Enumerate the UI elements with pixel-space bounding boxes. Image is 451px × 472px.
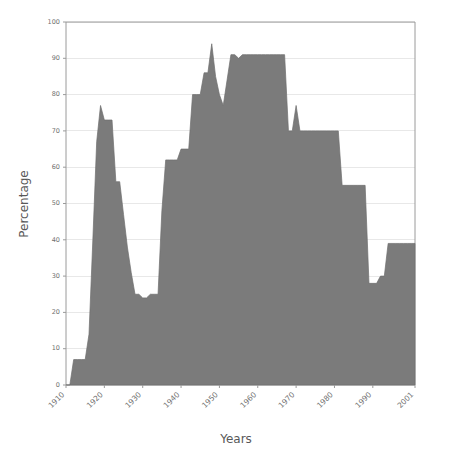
y-tick-label: 0 [56,381,60,389]
y-tick-label: 100 [48,18,60,26]
x-axis-ticks: 1910192019301940195019601970198019902001 [47,385,416,410]
y-axis-title: Percentage [17,170,31,238]
x-tick-label: 1990 [353,390,373,410]
x-tick-label: 1920 [85,390,105,410]
y-tick-label: 40 [52,236,60,244]
y-tick-label: 60 [52,163,60,171]
x-tick-label: 2001 [396,390,416,410]
x-tick-label: 1930 [123,390,143,410]
area-chart: 0102030405060708090100 19101920193019401… [0,0,451,472]
y-tick-label: 90 [52,54,60,62]
y-axis-ticks: 0102030405060708090100 [48,18,66,389]
x-tick-label: 1910 [47,390,67,410]
chart-container: 0102030405060708090100 19101920193019401… [0,0,451,472]
x-tick-label: 1980 [315,390,335,410]
y-tick-label: 50 [52,199,60,207]
x-tick-label: 1970 [277,390,297,410]
y-tick-label: 80 [52,90,60,98]
x-tick-label: 1940 [162,390,182,410]
y-tick-label: 20 [52,308,60,316]
y-tick-label: 70 [52,127,60,135]
y-tick-label: 10 [52,344,60,352]
x-axis-title: Years [219,432,252,446]
x-tick-label: 1950 [200,390,220,410]
y-tick-label: 30 [52,272,60,280]
x-tick-label: 1960 [238,390,258,410]
